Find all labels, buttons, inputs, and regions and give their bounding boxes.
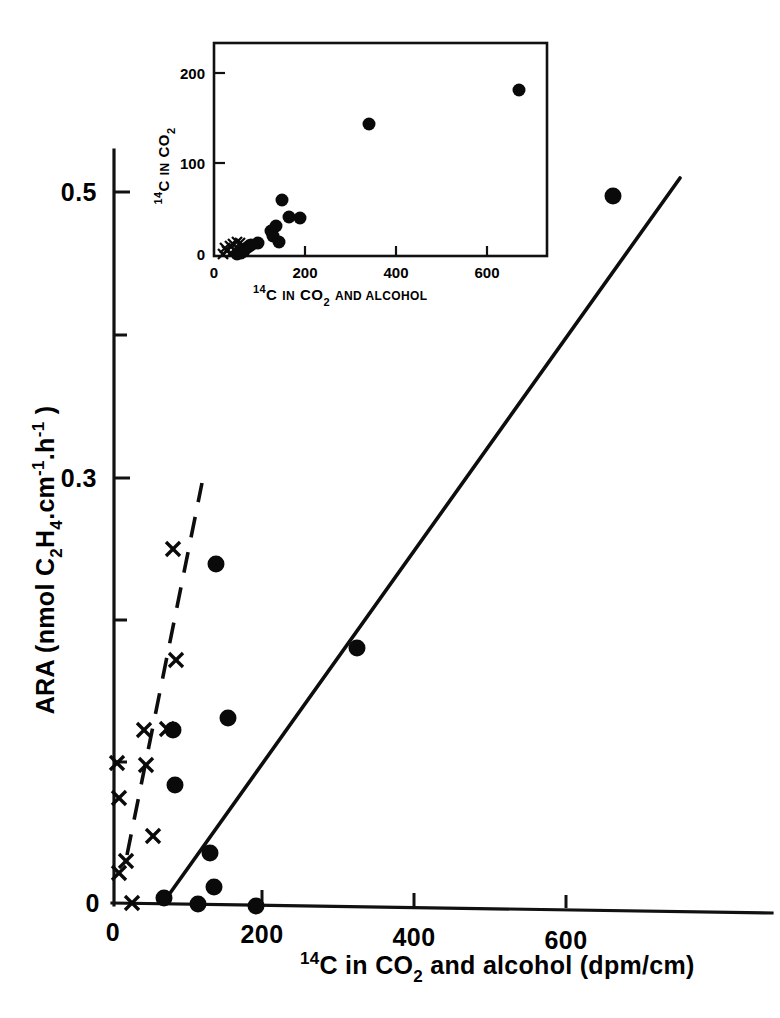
inset-frame-box — [214, 43, 547, 256]
data-point-circle — [167, 777, 184, 794]
y-ticklabel-0: 0 — [86, 889, 100, 917]
inset-y-title-in: IN — [158, 162, 172, 175]
inset-x-ticklabel-600: 600 — [474, 264, 499, 281]
x-ticklabel-400: 400 — [392, 923, 435, 951]
y-axis-title-a: ARA (nmol C — [31, 558, 59, 715]
x-axis-title-subscript: 2 — [413, 967, 423, 986]
inset-data-point-circle — [276, 194, 289, 207]
y-axis-title-d: .h — [31, 437, 59, 460]
data-point-circle — [206, 879, 223, 896]
data-point-circle — [349, 640, 366, 657]
data-point-circle — [208, 556, 225, 573]
x-ticklabel-0: 0 — [106, 918, 120, 946]
inset-data-point-circle — [363, 118, 376, 131]
inset-x-title-c: C — [266, 286, 277, 303]
data-point-circle — [605, 188, 622, 205]
y-axis-title-sup-1: -1 — [29, 460, 48, 476]
inset-x-ticklabel-200: 200 — [292, 264, 317, 281]
inset-y-title-subscript: 2 — [165, 128, 177, 135]
x-axis-title-main: C in CO — [320, 951, 414, 979]
data-point-circle — [202, 845, 219, 862]
inset-x-title-tail: AND ALCOHOL — [335, 289, 428, 303]
inset-x-ticklabel-0: 0 — [210, 264, 218, 281]
data-point-circle — [156, 890, 173, 907]
inset-x-title-superscript: 14 — [253, 283, 267, 295]
x-ticklabel-600: 600 — [544, 926, 587, 954]
inset-x-title-in: IN — [282, 289, 295, 303]
data-point-circle — [190, 896, 207, 913]
inset-x-title-subscript: 2 — [323, 296, 330, 308]
y-axis-title-sup-2: -1 — [29, 422, 48, 438]
x-ticklabel-200: 200 — [240, 920, 283, 948]
y-axis-title-e: ) — [31, 406, 59, 422]
y-axis-title-b: H — [31, 530, 59, 548]
y-ticklabel-0.3: 0.3 — [61, 464, 97, 492]
y-ticklabel-0.5: 0.5 — [61, 178, 97, 206]
scatter-chart-svg: 0.5 0.3 0 0 200 400 600 14C in CO2 and a… — [0, 0, 780, 1018]
inset-y-ticklabel-100: 100 — [180, 155, 205, 172]
y-axis-title-sub-4: 4 — [47, 520, 66, 530]
inset-data-point-circle — [294, 212, 307, 225]
data-point-circle — [248, 898, 265, 915]
inset-data-point-circle — [273, 236, 286, 249]
inset-y-title-superscript: 14 — [152, 191, 164, 205]
data-point-circle — [220, 710, 237, 727]
inset-x-title-co: CO — [300, 286, 323, 303]
inset-y-title-co: CO — [155, 134, 172, 157]
x-axis-title-superscript: 14 — [300, 949, 320, 968]
y-axis-title-c: .cm — [31, 476, 59, 520]
inset-data-point-circle — [513, 84, 526, 97]
y-axis-title-sub-2: 2 — [47, 548, 66, 558]
inset-y-ticklabel-0: 0 — [197, 246, 205, 263]
inset-y-ticklabel-200: 200 — [180, 65, 205, 82]
figure-panel: 0.5 0.3 0 0 200 400 600 14C in CO2 and a… — [0, 0, 780, 1018]
inset-y-title-c: C — [155, 180, 172, 191]
inset-x-ticklabel-400: 400 — [383, 264, 408, 281]
inset-data-point-circle — [283, 211, 296, 224]
x-axis-title-tail: and alcohol (dpm/cm) — [423, 951, 695, 979]
